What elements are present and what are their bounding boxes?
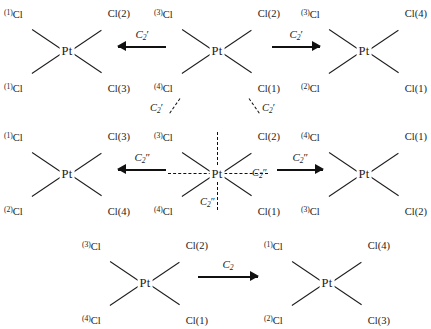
- bond-bottom-right: [148, 283, 180, 305]
- bond-bottom-right: [367, 174, 399, 196]
- ligand-number-top-left: (3): [154, 131, 163, 140]
- ligand-atom-bottom-right: Cl: [405, 206, 415, 217]
- bond-top-right: [220, 30, 252, 52]
- bond-top-right: [70, 30, 102, 52]
- arrow-head-left: [117, 164, 126, 174]
- ligand-number-top-right: (1): [415, 131, 427, 142]
- ligand-number-top-left: (3): [154, 8, 163, 17]
- axis-symbol: C: [150, 102, 157, 113]
- bond-bottom-right: [330, 283, 362, 305]
- operator-label-a3: C2″: [134, 151, 149, 165]
- ligand-number-top-right: (3): [118, 131, 130, 142]
- diagram-canvas: Pt (1)Cl Cl(2) (1)Cl Cl(3) C2′ Pt (3)Cl …: [0, 0, 431, 329]
- axis-label-ax4: C2″: [200, 196, 215, 209]
- ligand-number-top-left: (3): [82, 240, 91, 249]
- molecule-s3: Pt (3)Cl Cl(4) (2)Cl Cl(1): [299, 8, 429, 94]
- arrow-a5: C2: [198, 262, 258, 284]
- ligand-label-bottom-right: Cl(4): [108, 206, 130, 217]
- ligand-atom-bottom-right: Cl: [258, 206, 268, 217]
- ligand-atom-top-left: Cl: [310, 132, 320, 143]
- arrow-head-right: [250, 271, 259, 281]
- molecule-s8: Pt (1)Cl Cl(4) (2)Cl Cl(3): [262, 240, 392, 326]
- ligand-atom-bottom-left: Cl: [13, 83, 23, 94]
- ligand-number-top-right: (2): [268, 131, 280, 142]
- ligand-label-top-left: (3)Cl: [82, 240, 101, 252]
- ligand-label-top-left: (3)Cl: [154, 8, 173, 20]
- molecule-s2: Pt (3)Cl Cl(2) (4)Cl Cl(1): [152, 8, 282, 94]
- ligand-label-top-right: Cl(2): [258, 8, 280, 19]
- center-atom-label: Pt: [60, 167, 75, 182]
- molecule-s7: Pt (3)Cl Cl(2) (4)Cl Cl(1): [80, 240, 210, 326]
- ligand-number-bottom-left: (3): [301, 205, 310, 214]
- operator-subscript: 2: [230, 263, 234, 272]
- ligand-atom-top-left: Cl: [163, 9, 173, 20]
- operator-label-a1: C2′: [135, 28, 148, 42]
- ligand-number-top-left: (4): [301, 131, 310, 140]
- axis-line-ax2: [249, 98, 260, 113]
- ligand-label-top-right: Cl(4): [368, 240, 390, 251]
- ligand-atom-top-left: Cl: [273, 241, 283, 252]
- ligand-number-top-left: (1): [4, 131, 13, 140]
- ligand-number-bottom-right: (2): [415, 206, 427, 217]
- center-atom-label: Pt: [60, 44, 75, 59]
- ligand-atom-bottom-right: Cl: [108, 83, 118, 94]
- ligand-label-bottom-left: (2)Cl: [264, 314, 283, 326]
- ligand-label-bottom-right: Cl(1): [405, 83, 427, 94]
- ligand-label-top-left: (3)Cl: [154, 131, 173, 143]
- axis-line-ax1: [169, 98, 180, 113]
- ligand-label-top-right: Cl(4): [405, 8, 427, 19]
- ligand-atom-bottom-left: Cl: [13, 206, 23, 217]
- ligand-number-bottom-left: (1): [4, 82, 13, 91]
- ligand-label-bottom-left: (2)Cl: [4, 205, 23, 217]
- operator-label-a5: C2: [222, 258, 233, 272]
- molecule-s6: Pt (4)Cl Cl(1) (3)Cl Cl(2): [299, 131, 429, 217]
- ligand-label-top-right: Cl(1): [405, 131, 427, 142]
- ligand-label-top-right: Cl(3): [108, 131, 130, 142]
- ligand-number-bottom-left: (2): [4, 205, 13, 214]
- ligand-label-top-right: Cl(2): [186, 240, 208, 251]
- bond-top-right: [367, 153, 399, 175]
- ligand-atom-top-left: Cl: [163, 132, 173, 143]
- ligand-number-bottom-left: (2): [301, 82, 310, 91]
- ligand-number-bottom-right: (3): [378, 315, 390, 326]
- ligand-atom-top-left: Cl: [310, 9, 320, 20]
- ligand-number-top-right: (4): [378, 240, 390, 251]
- center-atom-label: Pt: [357, 44, 372, 59]
- ligand-label-top-left: (1)Cl: [264, 240, 283, 252]
- center-atom-label: Pt: [138, 276, 153, 291]
- ligand-label-bottom-left: (4)Cl: [154, 82, 173, 94]
- center-atom-label: Pt: [357, 167, 372, 182]
- center-atom-label: Pt: [210, 44, 225, 59]
- ligand-label-bottom-left: (2)Cl: [301, 82, 320, 94]
- axis-prime: ′: [161, 102, 163, 113]
- ligand-label-bottom-right: Cl(1): [258, 206, 280, 217]
- ligand-atom-top-right: Cl: [405, 131, 415, 142]
- ligand-atom-bottom-left: Cl: [91, 315, 101, 326]
- ligand-label-top-left: (4)Cl: [301, 131, 320, 143]
- axis-symbol: C: [252, 167, 259, 178]
- bond-top-right: [367, 30, 399, 52]
- ligand-atom-bottom-left: Cl: [310, 206, 320, 217]
- ligand-atom-top-left: Cl: [13, 132, 23, 143]
- ligand-atom-top-right: Cl: [258, 131, 268, 142]
- operator-prime: ″: [146, 151, 150, 163]
- ligand-label-top-left: (3)Cl: [301, 8, 320, 20]
- ligand-number-bottom-right: (1): [268, 206, 280, 217]
- center-atom-label: Pt: [210, 167, 225, 182]
- ligand-label-top-left: (1)Cl: [4, 131, 23, 143]
- ligand-atom-top-right: Cl: [368, 240, 378, 251]
- ligand-label-bottom-left: (3)Cl: [301, 205, 320, 217]
- ligand-atom-bottom-right: Cl: [108, 206, 118, 217]
- bond-bottom-right: [70, 174, 102, 196]
- ligand-atom-bottom-right: Cl: [368, 315, 378, 326]
- axis-symbol: C: [262, 102, 269, 113]
- axis-prime: ″: [211, 196, 215, 207]
- ligand-label-bottom-right: Cl(3): [368, 315, 390, 326]
- axis-label-ax1: C2′: [150, 102, 163, 115]
- ligand-number-bottom-right: (1): [268, 83, 280, 94]
- bond-top-right: [148, 262, 180, 284]
- arrow-head-left: [117, 41, 126, 51]
- ligand-label-bottom-right: Cl(1): [186, 315, 208, 326]
- ligand-atom-bottom-right: Cl: [258, 83, 268, 94]
- ligand-atom-top-left: Cl: [13, 9, 23, 20]
